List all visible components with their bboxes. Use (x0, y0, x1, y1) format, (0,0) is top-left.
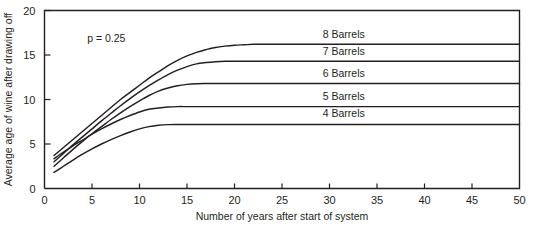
curve-4-barrels (54, 124, 520, 172)
y-tick-label-20: 20 (23, 5, 35, 17)
x-tick-label-15: 15 (181, 194, 193, 206)
x-tick-label-30: 30 (323, 194, 335, 206)
y-tick-label-15: 15 (23, 49, 35, 61)
x-tick-label-50: 50 (513, 194, 525, 206)
x-tick-label-5: 5 (89, 194, 95, 206)
x-tick-label-25: 25 (276, 194, 288, 206)
x-tick-label-10: 10 (133, 194, 145, 206)
chart-figure: 05101520253035404550051015208 Barrels7 B… (0, 0, 537, 228)
x-tick-label-40: 40 (418, 194, 430, 206)
series-label-4-barrels: 4 Barrels (323, 107, 365, 119)
series-label-6-barrels: 6 Barrels (323, 67, 365, 79)
curve-7-barrels (54, 61, 520, 162)
x-tick-label-45: 45 (466, 194, 478, 206)
series-label-8-barrels: 8 Barrels (323, 28, 365, 40)
series-label-7-barrels: 7 Barrels (323, 45, 365, 57)
y-axis-title: Average age of wine after drawing off (2, 13, 14, 187)
line-chart-canvas: 05101520253035404550051015208 Barrels7 B… (0, 0, 537, 228)
y-tick-label-10: 10 (23, 94, 35, 106)
series-label-5-barrels: 5 Barrels (323, 90, 365, 102)
x-tick-label-20: 20 (228, 194, 240, 206)
annotation-0: p = 0.25 (87, 32, 125, 44)
x-tick-label-0: 0 (41, 194, 47, 206)
x-axis-title: Number of years after start of system (196, 210, 369, 222)
y-tick-label-0: 0 (29, 183, 35, 195)
curve-5-barrels (54, 107, 520, 159)
x-tick-label-35: 35 (371, 194, 383, 206)
y-tick-label-5: 5 (29, 138, 35, 150)
